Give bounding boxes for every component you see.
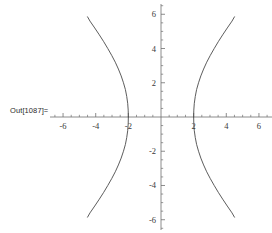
y-tick-label: -6 [149, 215, 156, 225]
output-cell-label: Out[1087]= [10, 106, 48, 115]
y-tick-label: 2 [152, 78, 156, 88]
y-tick-label: -4 [149, 180, 157, 190]
x-tick-label: 6 [257, 121, 261, 131]
x-tick-label: 2 [192, 121, 196, 131]
curve-right-branch-lower [194, 117, 235, 217]
x-tick-label: -2 [125, 121, 132, 131]
hyperbola-plot[interactable]: -6-4-2246-6-4-2246 [50, 4, 272, 230]
x-tick-label: 4 [224, 121, 229, 131]
curve-left-branch-lower [88, 117, 129, 217]
y-tick-label: -2 [149, 146, 156, 156]
x-tick-label: -4 [92, 121, 100, 131]
x-tick-label: -6 [60, 121, 67, 131]
plot-svg: -6-4-2246-6-4-2246 [50, 4, 272, 230]
y-tick-label: 4 [152, 44, 157, 54]
curve-left-branch [88, 17, 129, 117]
y-tick-label: 6 [152, 9, 156, 19]
notebook-output-cell: Out[1087]= -6-4-2246-6-4-2246 [0, 0, 272, 233]
curve-right-branch [194, 17, 235, 117]
plot-axes [50, 4, 272, 230]
